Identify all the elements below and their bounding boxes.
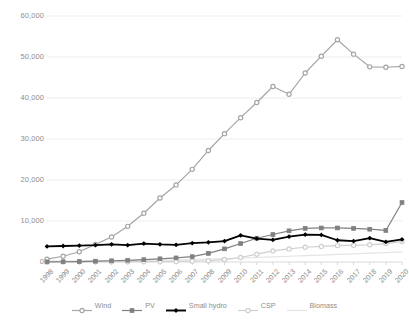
line-chart: 010,00020,00030,00040,00050,00060,000 19…	[0, 0, 409, 320]
legend-label: Wind	[95, 301, 111, 310]
data-point-marker	[335, 38, 339, 42]
data-point-marker	[222, 132, 226, 136]
data-point-marker	[335, 244, 339, 248]
data-point-marker	[142, 258, 146, 262]
data-point-marker	[141, 241, 146, 246]
data-point-marker	[368, 227, 372, 231]
legend-item-small-hydro[interactable]: Small hydro	[166, 301, 227, 310]
data-point-marker	[190, 255, 194, 259]
legend-label: PV	[145, 301, 155, 310]
legend-swatch-icon	[166, 301, 186, 310]
data-point-marker	[61, 244, 66, 249]
data-point-marker	[45, 244, 50, 249]
data-point-marker	[255, 252, 259, 256]
data-point-marker	[351, 243, 355, 247]
data-point-marker	[319, 54, 323, 58]
data-point-marker	[206, 259, 210, 263]
y-axis-tick-label: 20,000	[0, 175, 44, 184]
data-point-marker	[287, 247, 291, 251]
legend-swatch-icon	[287, 301, 307, 310]
data-point-marker	[319, 226, 323, 230]
data-point-marker	[336, 226, 340, 230]
data-point-marker	[222, 257, 226, 261]
data-point-marker	[109, 242, 114, 247]
legend-item-csp[interactable]: CSP	[238, 301, 276, 310]
legend-swatch-icon	[122, 301, 142, 310]
data-point-marker	[126, 224, 130, 228]
data-point-marker	[384, 229, 388, 233]
data-point-marker	[61, 254, 65, 258]
data-point-marker	[368, 65, 372, 69]
data-point-marker	[303, 245, 307, 249]
y-axis-tick-label: 40,000	[0, 93, 44, 102]
data-point-marker	[45, 260, 49, 264]
data-point-marker	[287, 234, 292, 239]
data-point-marker	[400, 64, 404, 68]
data-point-marker	[190, 241, 195, 246]
data-point-marker	[239, 255, 243, 259]
legend-item-biomass[interactable]: Biomass	[287, 301, 338, 310]
data-point-marker	[158, 257, 162, 261]
series-line	[47, 203, 402, 262]
series-line	[47, 40, 402, 259]
data-point-marker	[271, 237, 276, 242]
legend-label: Small hydro	[189, 301, 227, 310]
data-point-marker	[109, 235, 113, 239]
legend-item-wind[interactable]: Wind	[72, 301, 111, 310]
data-point-marker	[61, 260, 65, 264]
data-point-marker	[190, 167, 194, 171]
data-point-marker	[271, 249, 275, 253]
y-axis-tick-label: 50,000	[0, 52, 44, 61]
data-point-marker	[142, 211, 146, 215]
data-point-marker	[125, 243, 130, 248]
data-point-marker	[206, 251, 210, 255]
data-point-marker	[77, 250, 81, 254]
data-point-marker	[351, 52, 355, 56]
data-point-marker	[319, 244, 323, 248]
data-point-marker	[158, 242, 163, 247]
y-axis-tick-label: 30,000	[0, 134, 44, 143]
data-point-marker	[287, 92, 291, 96]
data-point-marker	[173, 308, 178, 313]
data-point-marker	[400, 201, 404, 205]
data-point-marker	[223, 247, 227, 251]
data-point-marker	[222, 239, 227, 244]
data-point-marker	[77, 243, 82, 248]
data-point-marker	[174, 242, 179, 247]
data-point-marker	[271, 233, 275, 237]
data-point-marker	[335, 238, 340, 243]
data-point-marker	[303, 71, 307, 75]
legend-label: CSP	[261, 301, 276, 310]
data-point-marker	[303, 232, 308, 237]
data-point-marker	[206, 148, 210, 152]
data-point-marker	[367, 236, 372, 241]
data-point-marker	[190, 259, 194, 263]
data-point-marker	[80, 308, 84, 312]
legend-swatch-icon	[72, 301, 92, 310]
y-axis-tick-label: 0	[0, 257, 44, 266]
data-point-marker	[238, 233, 243, 238]
data-point-marker	[384, 65, 388, 69]
legend-swatch-icon	[238, 301, 258, 310]
data-point-marker	[351, 239, 356, 244]
series-small-hydro	[45, 232, 405, 249]
data-point-marker	[94, 259, 98, 263]
data-point-marker	[287, 229, 291, 233]
data-point-marker	[158, 196, 162, 200]
legend-label: Biomass	[310, 301, 338, 310]
data-point-marker	[239, 242, 243, 246]
data-point-marker	[271, 84, 275, 88]
data-point-marker	[174, 183, 178, 187]
data-point-marker	[174, 256, 178, 260]
legend-item-pv[interactable]: PV	[122, 301, 155, 310]
data-point-marker	[319, 233, 324, 238]
chart-legend: WindPVSmall hydroCSPBiomass	[0, 296, 409, 314]
y-axis-tick-label: 10,000	[0, 216, 44, 225]
data-point-marker	[77, 260, 81, 264]
data-point-marker	[130, 308, 134, 312]
data-point-marker	[246, 308, 250, 312]
data-point-marker	[368, 243, 372, 247]
data-point-marker	[126, 258, 130, 262]
data-point-marker	[239, 116, 243, 120]
data-point-marker	[303, 226, 307, 230]
